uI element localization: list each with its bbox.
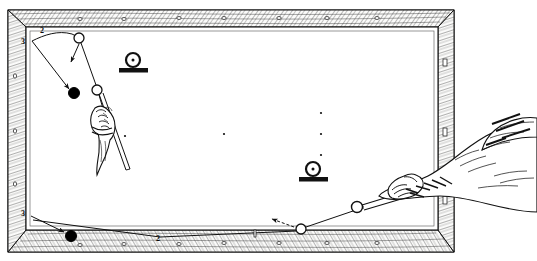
label-left-3-upper: 3 [21,37,25,46]
ball-top-cue-white [74,33,84,43]
ball-cue-white-right [352,202,363,213]
table-cloth-bed [26,27,438,230]
diagram-canvas: 2 3 3 2 [0,0,537,261]
ball-white-bottom-rail [296,224,306,234]
bottom-rail-gap [254,230,256,237]
label-top-2: 2 [40,26,44,35]
billiards-diagram-figure: 2 3 3 2 [0,0,537,261]
label-bottom-2: 2 [156,234,160,243]
ball-object-black-upper [69,88,80,99]
ball-object-black-lower [66,231,77,242]
table-frame [8,10,454,252]
label-left-3-lower: 3 [21,209,25,218]
ball-white-mid-upper [92,85,102,95]
